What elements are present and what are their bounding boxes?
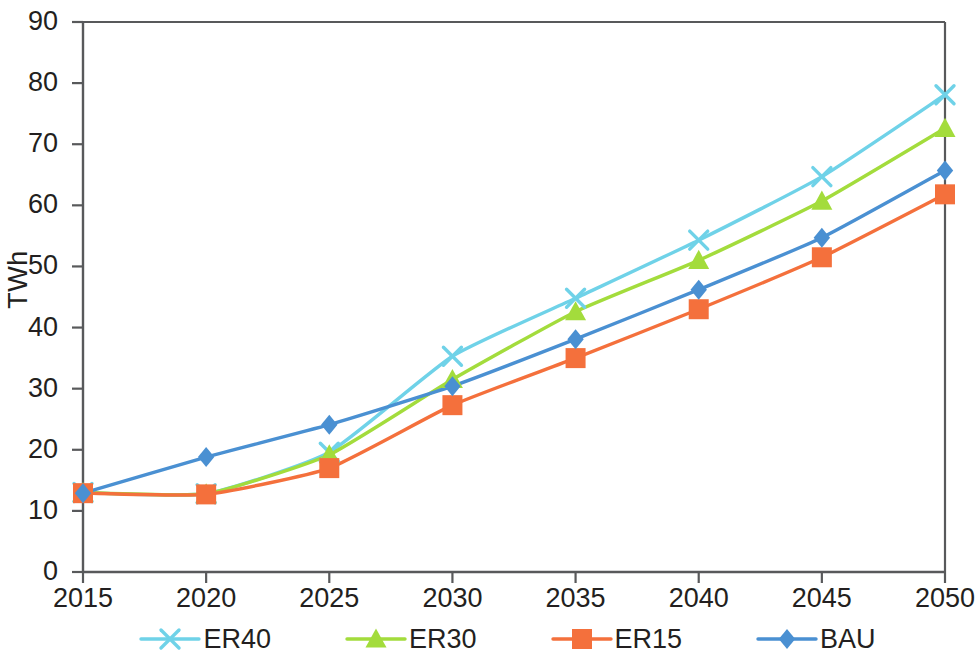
y-axis-tick-label: 10 — [8, 497, 58, 524]
y-axis-tick-label: 40 — [8, 314, 58, 341]
line-chart: TWh 0102030405060708090 ER40ER30ER15BAU … — [0, 0, 975, 660]
legend-marker-triangle-marker — [345, 626, 407, 652]
legend-marker-square-marker — [551, 626, 613, 652]
y-axis-tick-label: 30 — [8, 375, 58, 402]
triangle-marker — [935, 118, 956, 137]
diamond-marker — [567, 329, 583, 349]
chart-legend: ER40ER30ER15BAU — [0, 618, 975, 660]
diamond-marker — [937, 161, 953, 181]
diamond-marker — [198, 447, 214, 467]
square-marker — [442, 395, 462, 415]
series-markers-bau — [75, 161, 953, 504]
square-marker — [319, 458, 339, 478]
y-axis-tick-label: 0 — [8, 558, 58, 585]
legend-swatch-er15 — [551, 626, 613, 652]
series-markers-er40 — [74, 86, 954, 503]
diamond-marker — [321, 415, 337, 435]
x-axis-tick-label: 2030 — [397, 585, 507, 612]
y-axis-tick-label: 50 — [8, 252, 58, 279]
x-axis-tick-label: 2045 — [767, 585, 877, 612]
x-axis-tick-label: 2020 — [151, 585, 261, 612]
plot-area — [0, 0, 975, 660]
series-line-bau — [83, 171, 945, 494]
legend-label: ER40 — [203, 626, 271, 653]
y-axis-tick-label: 90 — [8, 8, 58, 35]
diamond-marker — [779, 629, 795, 649]
legend-swatch-er40 — [139, 626, 201, 652]
legend-item-er30[interactable]: ER30 — [345, 626, 477, 653]
x-axis-tick-label: 2040 — [644, 585, 754, 612]
legend-label: BAU — [820, 626, 876, 653]
y-axis-tick-label: 60 — [8, 191, 58, 218]
legend-item-bau[interactable]: BAU — [756, 626, 876, 653]
x-axis-tick-label: 2050 — [890, 585, 975, 612]
square-marker — [689, 299, 709, 319]
legend-marker-diamond-marker — [756, 626, 818, 652]
square-marker — [935, 184, 955, 204]
legend-item-er15[interactable]: ER15 — [551, 626, 683, 653]
y-axis-tick-label: 70 — [8, 130, 58, 157]
legend-marker-x-marker — [139, 626, 201, 652]
diamond-marker — [444, 376, 460, 396]
x-axis-tick-label: 2035 — [521, 585, 631, 612]
x-axis-tick-label: 2015 — [28, 585, 138, 612]
x-axis-tick-label: 2025 — [274, 585, 384, 612]
square-marker — [572, 629, 592, 649]
legend-label: ER30 — [409, 626, 477, 653]
square-marker — [812, 247, 832, 267]
legend-label: ER15 — [615, 626, 683, 653]
triangle-marker — [688, 250, 709, 269]
legend-swatch-er30 — [345, 626, 407, 652]
diamond-marker — [814, 228, 830, 248]
square-marker — [566, 348, 586, 368]
series-path — [83, 95, 945, 495]
series-path — [83, 171, 945, 494]
legend-item-er40[interactable]: ER40 — [139, 626, 271, 653]
diamond-marker — [691, 280, 707, 300]
y-axis-tick-label: 80 — [8, 69, 58, 96]
y-axis-tick-labels: 0102030405060708090 — [0, 0, 58, 660]
y-axis-tick-label: 20 — [8, 436, 58, 463]
triangle-marker — [811, 191, 832, 210]
series-line-er40 — [83, 95, 945, 495]
square-marker — [196, 484, 216, 504]
legend-swatch-bau — [756, 626, 818, 652]
